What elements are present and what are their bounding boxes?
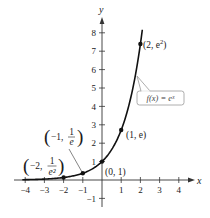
data-point — [138, 42, 142, 46]
y-tick-label: −1 — [86, 194, 96, 204]
y-tick-label: 6 — [92, 65, 97, 75]
callout-label: f(x) = eˣ — [147, 93, 176, 103]
data-point — [119, 128, 123, 132]
y-tick-label: 3 — [92, 120, 97, 130]
data-point — [100, 159, 104, 163]
x-tick-label: 1 — [119, 185, 124, 195]
exponential-graph: x y −4−3−2−11234−112345678 f(x) = eˣ (2,… — [0, 0, 210, 218]
svg-text:): ) — [77, 126, 83, 148]
data-point — [81, 171, 85, 175]
svg-text:−1,: −1, — [51, 132, 63, 142]
x-tick-label: 2 — [138, 185, 143, 195]
leader-line — [69, 149, 82, 172]
y-axis-label: y — [98, 4, 104, 15]
svg-text:(2, e2): (2, e2) — [143, 38, 166, 51]
x-tick-label: −4 — [20, 185, 30, 195]
y-tick-label: 5 — [92, 83, 97, 93]
svg-text:1: 1 — [50, 156, 55, 166]
y-tick-label: 8 — [92, 28, 97, 38]
exp-curve — [22, 30, 142, 180]
svg-text:1: 1 — [69, 127, 74, 137]
svg-text:): ) — [58, 155, 64, 177]
label-point-2: (2, e2) — [143, 38, 166, 51]
svg-text:(: ( — [44, 126, 50, 148]
x-axis-label: x — [196, 175, 202, 186]
x-tick-label: −2 — [59, 185, 69, 195]
axis-ticks: −4−3−2−11234−112345678 — [20, 28, 181, 204]
svg-text:e²: e² — [48, 167, 55, 177]
label-point-neg2: ( −2, 1 e² ) — [23, 155, 64, 177]
label-point-1: (1, e) — [126, 130, 146, 141]
y-tick-label: 4 — [92, 102, 97, 112]
x-tick-label: 4 — [177, 185, 182, 195]
y-axis — [100, 17, 105, 207]
label-point-0: (0, 1) — [105, 167, 126, 178]
function-callout: f(x) = eˣ — [137, 76, 184, 105]
svg-text:(: ( — [23, 155, 29, 177]
svg-text:e: e — [69, 137, 73, 147]
svg-text:−2,: −2, — [30, 161, 42, 171]
y-tick-label: 2 — [92, 138, 97, 148]
y-tick-label: 7 — [92, 46, 97, 56]
y-tick-label: 1 — [92, 157, 97, 167]
x-tick-label: 3 — [157, 185, 162, 195]
x-tick-label: −3 — [40, 185, 50, 195]
